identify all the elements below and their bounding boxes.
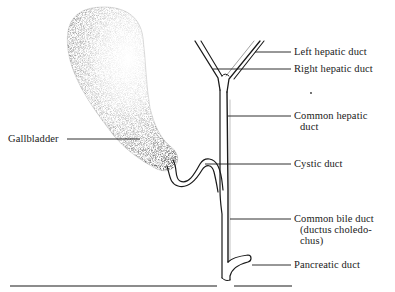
label-pancreatic-duct: Pancreatic duct [294, 259, 360, 270]
anatomy-diagram: Left hepatic duct Right hepatic duct Com… [0, 0, 395, 292]
common-duct-shape [220, 90, 230, 278]
label-common-bile-line1: Common bile duct [294, 213, 374, 224]
stray-dot [310, 92, 312, 94]
label-common-hepatic-duct: Common hepatic duct [294, 110, 367, 132]
label-right-hepatic-duct: Right hepatic duct [294, 63, 373, 74]
label-common-hepatic-line1: Common hepatic [294, 110, 367, 121]
gallbladder-shape [67, 7, 177, 171]
diagram-canvas [0, 0, 395, 292]
label-common-bile-duct: Common bile duct (ductus choledo- chus) [294, 213, 374, 246]
pancreatic-duct-shape [222, 255, 251, 281]
hepatic-ducts-shape [195, 41, 264, 92]
label-cystic-duct: Cystic duct [294, 158, 343, 169]
label-common-hepatic-line2: duct [294, 121, 367, 132]
label-common-bile-line3: chus) [294, 235, 374, 246]
label-gallbladder: Gallbladder [8, 133, 59, 144]
label-left-hepatic-duct: Left hepatic duct [294, 46, 367, 57]
label-common-bile-line2: (ductus choledo- [294, 224, 374, 235]
